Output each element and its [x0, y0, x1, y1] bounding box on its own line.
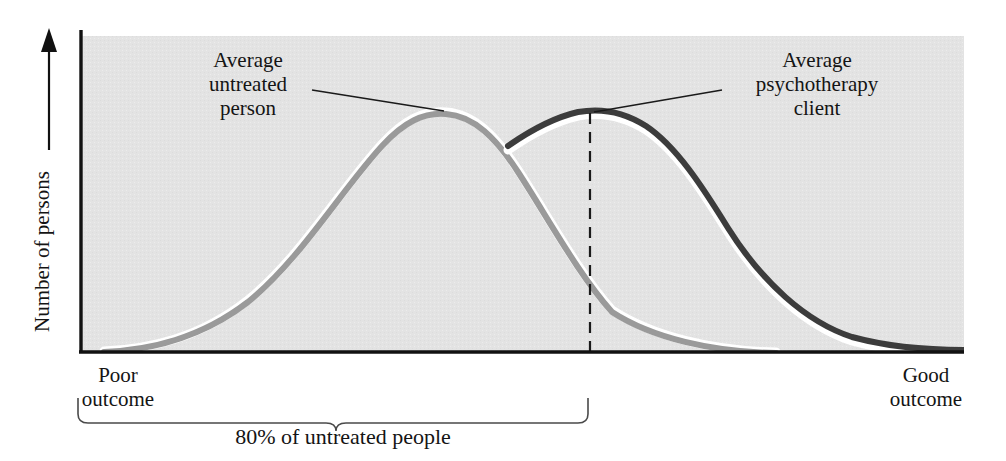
percentile-brace-label: 80% of untreated people [183, 424, 503, 449]
y-axis-arrow-icon [41, 28, 57, 150]
annotation-psychotherapy: Average psychotherapy client [722, 48, 912, 120]
x-axis-right-label: Good outcome [866, 363, 986, 411]
annotation-untreated: Average untreated person [178, 48, 318, 120]
y-axis-label: Number of persons [30, 171, 54, 332]
x-axis-left-label: Poor outcome [58, 363, 178, 411]
figure-container: Number of persons Average untreated pers… [0, 0, 1006, 461]
